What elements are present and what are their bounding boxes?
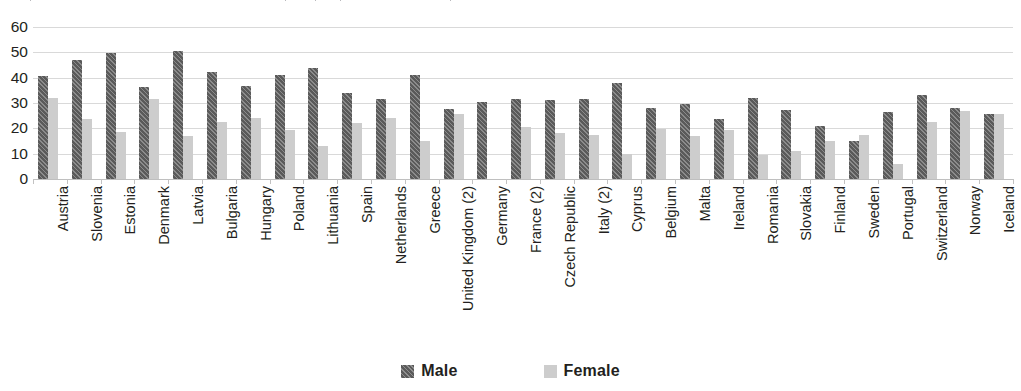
bar-female[interactable] (251, 118, 261, 179)
bar-male[interactable] (410, 75, 420, 179)
bar-female[interactable] (116, 132, 126, 179)
x-tick-24 (844, 179, 845, 184)
bar-male[interactable] (477, 102, 487, 179)
bar-male[interactable] (207, 72, 217, 179)
bar-group (371, 27, 405, 179)
bar-female[interactable] (386, 118, 396, 179)
bar-male[interactable] (342, 93, 352, 179)
x-axis-label: Estonia (123, 186, 138, 346)
x-tick-4 (168, 179, 169, 184)
bar-female[interactable] (82, 119, 92, 179)
bar-female[interactable] (352, 123, 362, 179)
bar-male[interactable] (748, 98, 758, 179)
bar-male[interactable] (173, 51, 183, 179)
bar-female[interactable] (656, 129, 666, 179)
bar-male[interactable] (579, 99, 589, 179)
bar-male[interactable] (308, 68, 318, 179)
x-tick-6 (236, 179, 237, 184)
bar-female[interactable] (791, 151, 801, 179)
x-tick-13 (472, 179, 473, 184)
bar-male[interactable] (849, 141, 859, 180)
bar-female[interactable] (183, 136, 193, 179)
bar-male[interactable] (241, 86, 251, 179)
x-axis-label: Lithuania (326, 186, 341, 346)
bar-male[interactable] (545, 100, 555, 179)
x-tick-9 (337, 179, 338, 184)
bar-group (168, 27, 202, 179)
bar-male[interactable] (714, 119, 724, 179)
bar-group (134, 27, 168, 179)
bar-male[interactable] (106, 53, 116, 179)
x-axis-label: United Kingdom (2) (461, 186, 476, 346)
legend-swatch-male-icon (401, 365, 414, 378)
y-axis-labels: 0102030405060 (0, 27, 28, 179)
bar-female[interactable] (589, 135, 599, 179)
x-tick-18 (641, 179, 642, 184)
bar-group (67, 27, 101, 179)
x-axis-label: Germany (495, 186, 510, 346)
bar-group (979, 27, 1013, 179)
bar-male[interactable] (38, 76, 48, 179)
x-tick-2 (101, 179, 102, 184)
bar-female[interactable] (825, 141, 835, 180)
bar-male[interactable] (376, 99, 386, 179)
bar-female[interactable] (48, 98, 58, 179)
bar-female[interactable] (454, 114, 464, 179)
bar-female[interactable] (927, 122, 937, 179)
x-axis-label: Ireland (732, 186, 747, 346)
bar-male[interactable] (950, 108, 960, 179)
x-tick-22 (776, 179, 777, 184)
bar-group (506, 27, 540, 179)
legend-item-male[interactable]: Male (401, 362, 457, 380)
bar-female[interactable] (622, 154, 632, 179)
bar-female[interactable] (960, 111, 970, 179)
bar-male[interactable] (139, 87, 149, 179)
chart-legend: Male Female (0, 360, 1021, 382)
bar-female[interactable] (521, 127, 531, 179)
bar-female[interactable] (217, 122, 227, 179)
bar-male[interactable] (72, 60, 82, 179)
x-tick-0 (33, 179, 34, 184)
bar-male[interactable] (917, 95, 927, 179)
bar-female[interactable] (318, 146, 328, 179)
x-axis-label: Portugal (901, 186, 916, 346)
x-tick-14 (506, 179, 507, 184)
x-axis-label: Malta (698, 186, 713, 346)
y-axis-tick-label-20: 20 (11, 121, 28, 137)
bar-female[interactable] (893, 164, 903, 179)
bar-group (641, 27, 675, 179)
bar-group (33, 27, 67, 179)
bar-female[interactable] (758, 155, 768, 179)
bar-male[interactable] (275, 75, 285, 179)
bar-group (912, 27, 946, 179)
bar-female[interactable] (724, 130, 734, 179)
bar-female[interactable] (555, 133, 565, 179)
bar-male[interactable] (984, 114, 994, 179)
x-tick-19 (675, 179, 676, 184)
bar-female[interactable] (994, 114, 1004, 179)
x-tick-10 (371, 179, 372, 184)
bar-male[interactable] (781, 110, 791, 179)
x-axis-label: Austria (56, 186, 71, 346)
bar-group (878, 27, 912, 179)
bar-male[interactable] (815, 126, 825, 179)
x-axis-label: Norway (968, 186, 983, 346)
bar-male[interactable] (646, 108, 656, 179)
x-axis-label: Sweden (867, 186, 882, 346)
bar-male[interactable] (612, 83, 622, 179)
bar-male[interactable] (680, 104, 690, 179)
bar-female[interactable] (420, 141, 430, 179)
bar-female[interactable] (285, 130, 295, 179)
bar-group (776, 27, 810, 179)
bar-female[interactable] (690, 136, 700, 179)
legend-label-male: Male (421, 362, 457, 380)
legend-item-female[interactable]: Female (544, 362, 620, 380)
bar-group (405, 27, 439, 179)
bar-male[interactable] (444, 109, 454, 179)
bar-female[interactable] (149, 99, 159, 179)
bar-male[interactable] (511, 99, 521, 179)
x-axis-label: Slovakia (799, 186, 814, 346)
bar-female[interactable] (859, 135, 869, 179)
x-tick-26 (912, 179, 913, 184)
bar-male[interactable] (883, 112, 893, 179)
